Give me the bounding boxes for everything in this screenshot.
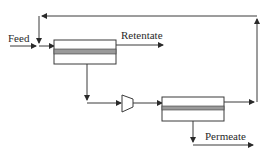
feed-stream: Feed bbox=[8, 32, 54, 46]
permeate-stream: Permeate bbox=[193, 121, 253, 145]
compressor-icon bbox=[122, 95, 133, 112]
membrane-module-1 bbox=[54, 40, 116, 64]
feed-label: Feed bbox=[8, 32, 30, 44]
process-flow-diagram: Feed Retentate Permeate bbox=[0, 0, 265, 158]
retentate-label: Retentate bbox=[121, 29, 163, 41]
retentate-stream: Retentate bbox=[116, 29, 163, 45]
permeate-label: Permeate bbox=[205, 130, 246, 142]
membrane-band bbox=[162, 106, 224, 110]
membrane-module-2 bbox=[162, 97, 224, 121]
membrane-band bbox=[54, 49, 116, 54]
intermediate-permeate-stream bbox=[87, 64, 121, 103]
